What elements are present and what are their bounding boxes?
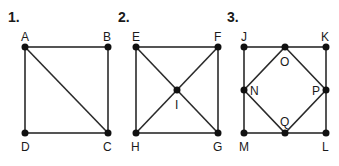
figure-3: 3. J K L M N O P Q [227, 9, 330, 154]
point-d [22, 130, 29, 137]
label-k: K [321, 30, 329, 44]
label-b: B [103, 30, 111, 44]
figure-3-number: 3. [227, 9, 239, 25]
label-f: F [214, 30, 221, 44]
point-b [105, 44, 112, 51]
figure-1: 1. A B C D [8, 9, 112, 154]
figure-1-number: 1. [8, 9, 20, 25]
point-j [241, 44, 248, 51]
point-n [241, 87, 248, 94]
label-o: O [280, 55, 289, 69]
point-g [215, 130, 222, 137]
point-e [133, 44, 140, 51]
label-q: Q [280, 115, 289, 129]
label-j: J [241, 30, 247, 44]
point-l [323, 130, 330, 137]
point-o [282, 44, 289, 51]
figure-2-number: 2. [118, 9, 130, 25]
label-g: G [213, 140, 222, 154]
geometry-figures: 1. A B C D 2. E F G H I 3. [0, 0, 339, 166]
label-n: N [250, 84, 259, 98]
label-l: L [322, 140, 329, 154]
point-k [323, 44, 330, 51]
point-h [133, 130, 140, 137]
label-m: M [239, 140, 249, 154]
label-c: C [103, 140, 112, 154]
label-p: P [312, 84, 320, 98]
label-i: I [175, 98, 178, 112]
label-h: H [131, 140, 140, 154]
point-m [241, 130, 248, 137]
point-p [323, 87, 330, 94]
figure-2: 2. E F G H I [118, 9, 222, 154]
label-e: E [132, 30, 140, 44]
point-i [174, 87, 181, 94]
point-a [22, 44, 29, 51]
diagonal-ac [25, 47, 108, 133]
point-c [105, 130, 112, 137]
label-a: A [21, 30, 29, 44]
point-f [215, 44, 222, 51]
point-q [282, 130, 289, 137]
label-d: D [21, 140, 30, 154]
